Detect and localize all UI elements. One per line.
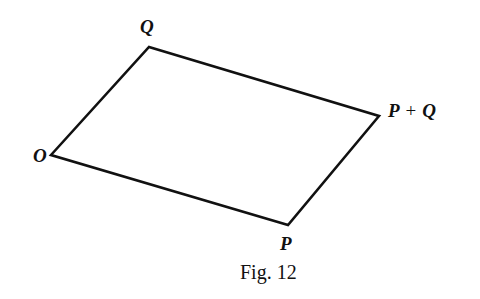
label-q-part: Q [422, 100, 436, 121]
vertex-label-p-plus-q: P+Q [388, 101, 436, 120]
vertex-label-o: O [33, 146, 47, 165]
plus-sign: + [406, 100, 417, 121]
parallelogram-diagram [0, 0, 480, 299]
vertex-label-q: Q [140, 17, 154, 36]
parallelogram-shape [51, 47, 379, 225]
figure-caption: Fig. 12 [240, 262, 297, 282]
label-p-part: P [388, 100, 400, 121]
vertex-label-p: P [280, 234, 292, 253]
